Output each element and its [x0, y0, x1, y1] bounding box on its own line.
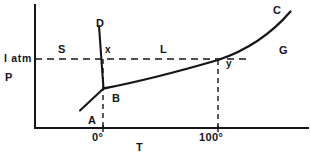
region-label-gas: G: [279, 45, 288, 56]
point-label-b: B: [112, 93, 120, 104]
phase-diagram-canvas: [0, 0, 310, 161]
point-label-x: x: [105, 45, 111, 55]
reference-lines-group: [35, 59, 250, 128]
sublimation-curve-line: [80, 89, 104, 111]
point-label-y: y: [226, 59, 232, 69]
x-axis-label: T: [136, 142, 143, 153]
point-label-a: A: [88, 115, 96, 126]
region-label-liquid: L: [160, 44, 167, 55]
region-label-solid: S: [58, 44, 66, 55]
y-axis-label: P: [5, 72, 13, 83]
phase-diagram-figure: I atm P T 0° 100° S L G D x B A y C: [0, 0, 310, 161]
vaporization-curve-line: [104, 12, 291, 89]
x-tick-label-100: 100°: [199, 132, 223, 143]
axes-group: [35, 5, 308, 128]
point-label-d: D: [96, 18, 104, 29]
fusion-curve-line: [99, 26, 104, 89]
pressure-tick-label: I atm: [4, 53, 32, 64]
point-label-c: C: [273, 5, 281, 16]
x-tick-label-0: 0°: [92, 132, 103, 143]
